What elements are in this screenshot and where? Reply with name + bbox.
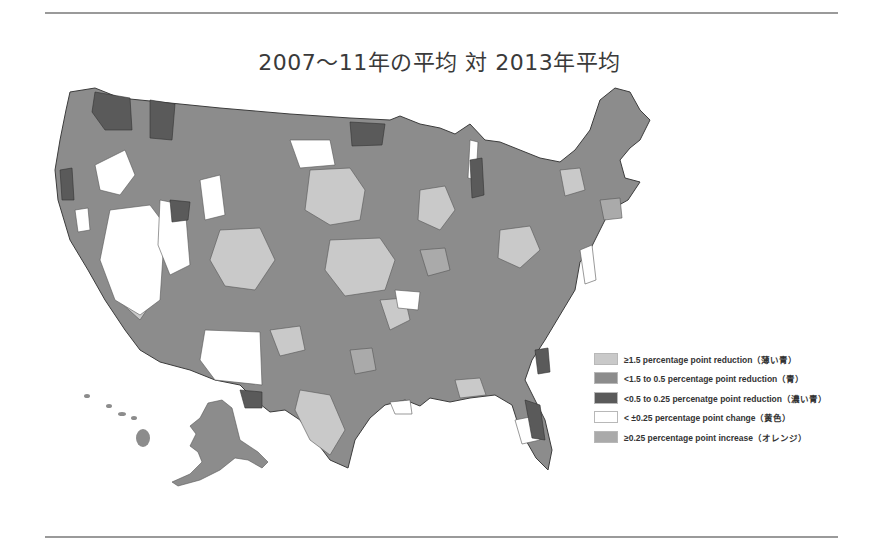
legend-label: ≥1.5 percentage point reduction（薄い青） — [624, 353, 797, 365]
legend-swatch-increase — [594, 431, 618, 443]
legend-swatch-dark — [594, 392, 618, 404]
legend-label: <0.5 to 0.25 percenatge point reduction（… — [624, 392, 827, 404]
legend-label: < ±0.25 percentage point change（黄色） — [624, 411, 792, 423]
legend-label: <1.5 to 0.5 percentage point reduction（青… — [624, 372, 804, 384]
legend-swatch-medium — [594, 372, 618, 384]
legend-swatch-light — [594, 353, 618, 365]
legend-swatch-none — [594, 411, 618, 423]
hawaii — [84, 394, 150, 447]
legend: ≥1.5 percentage point reduction（薄い青） <1.… — [594, 349, 827, 447]
legend-item: < ±0.25 percentage point change（黄色） — [594, 408, 827, 428]
legend-item: ≥0.25 percentage point increase（オレンジ） — [594, 427, 827, 447]
legend-item: <0.5 to 0.25 percenatge point reduction（… — [594, 388, 827, 408]
bottom-divider — [45, 536, 838, 538]
legend-item: ≥1.5 percentage point reduction（薄い青） — [594, 349, 827, 369]
legend-item: <1.5 to 0.5 percentage point reduction（青… — [594, 369, 827, 389]
legend-label: ≥0.25 percentage point increase（オレンジ） — [624, 431, 807, 443]
us-choropleth-map — [0, 0, 879, 541]
alaska — [172, 400, 268, 486]
